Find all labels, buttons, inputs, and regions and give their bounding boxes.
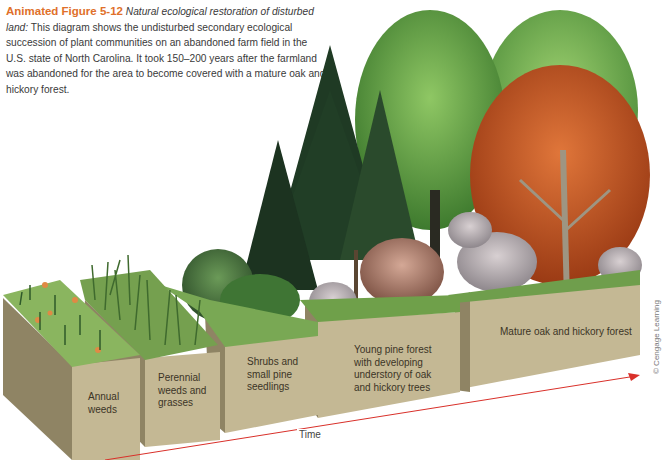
stage-label-shrubs: Shrubs and small pine seedlings: [247, 356, 307, 394]
copyright-notice: © Cengage Learning: [652, 300, 661, 374]
stage-label-young-pine: Young pine forest with developing unders…: [354, 344, 448, 394]
stage-label-perennial: Perennial weeds and grasses: [158, 372, 218, 410]
stage-label-annual: Annual weeds: [88, 391, 136, 416]
time-axis-label: Time: [297, 429, 323, 440]
stage-label-mature-forest: Mature oak and hickory forest: [500, 326, 640, 339]
